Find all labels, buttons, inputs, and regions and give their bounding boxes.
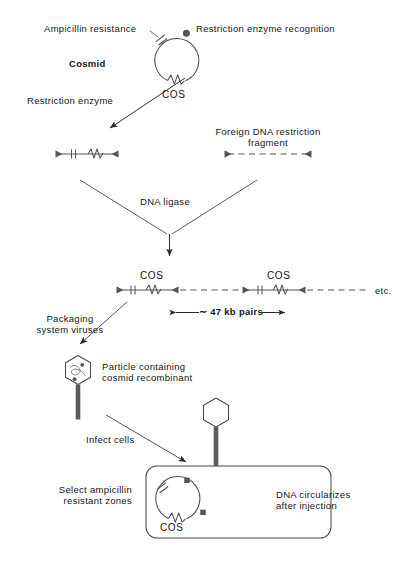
label-foreign-dna-line2: fragment [206, 137, 330, 149]
circular-dna-icon [155, 30, 199, 84]
label-cos-cell: COS [160, 522, 183, 534]
restriction-site-dot-icon [184, 478, 189, 483]
label-packaging-line2: system viruses [17, 324, 123, 336]
label-kb-pairs: ∼ 47 kb pairs [196, 306, 266, 318]
label-particle-line2: cosmid recombinant [102, 372, 192, 384]
label-cos-right: COS [267, 270, 290, 282]
phage-particle-icon [66, 356, 91, 420]
label-circularizes-line1: DNA circularizes [276, 489, 350, 501]
concatemer-dna [117, 285, 369, 295]
label-cos-cosmid: COS [162, 89, 185, 101]
restriction-site-dot-icon [183, 30, 190, 37]
label-infect-cells: Infect cells [86, 434, 134, 446]
label-restriction-enzyme-recognition: Restriction enzyme recognition [196, 23, 335, 35]
dna-ligase-arrows [80, 180, 257, 256]
label-circularizes-line2: after injection [276, 500, 337, 512]
label-packaging-line1: Packaging [17, 313, 123, 325]
diagram-canvas [0, 0, 414, 564]
cosmid-cloning-diagram: Ampicillin resistance Restriction enzyme… [0, 0, 414, 564]
label-cosmid: Cosmid [69, 58, 106, 70]
label-etc: etc. [375, 285, 392, 297]
label-select-line1: Select ampicillin [22, 484, 132, 496]
label-restriction-enzyme: Restriction enzyme [27, 95, 113, 107]
label-ampicillin-resistance: Ampicillin resistance [44, 23, 136, 35]
ampicillin-leader-line [150, 31, 158, 37]
linear-dna-icon [56, 149, 119, 159]
label-cos-left: COS [140, 270, 163, 282]
restriction-enzyme-arrow [110, 78, 185, 128]
label-particle-line1: Particle containing [102, 361, 185, 373]
dashed-dna-icon [225, 150, 312, 158]
restriction-site-dot-icon [200, 510, 205, 515]
label-select-line2: resistant zones [22, 495, 132, 507]
label-dna-ligase: DNA ligase [140, 196, 190, 208]
label-foreign-dna-line1: Foreign DNA restriction [206, 126, 330, 138]
empty-phage-icon [204, 398, 229, 466]
